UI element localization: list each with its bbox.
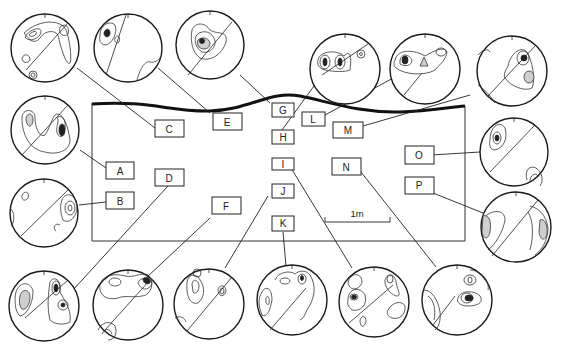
stereonet-P (481, 192, 551, 262)
stereonet-F (93, 270, 163, 340)
station-label-I: I (272, 158, 294, 170)
svg-text:O: O (415, 150, 423, 161)
station-label-N: N (332, 158, 361, 175)
svg-text:I: I (282, 159, 285, 170)
stereonet-M (477, 36, 547, 106)
svg-text:C: C (165, 124, 172, 135)
svg-text:F: F (223, 201, 229, 212)
svg-text:L: L (310, 114, 316, 125)
stereonet-O (480, 118, 548, 186)
stereonet-I (339, 267, 409, 337)
station-label-D: D (155, 169, 184, 186)
stereonet-E (94, 14, 162, 82)
station-label-M: M (333, 122, 363, 138)
scale-bar: 1m (325, 208, 390, 222)
stereonet-K (257, 265, 327, 335)
stereonet-C (11, 14, 79, 82)
station-label-J: J (272, 184, 294, 198)
svg-text:H: H (279, 132, 286, 143)
svg-text:A: A (117, 166, 124, 177)
station-label-F: F (212, 197, 241, 214)
station-label-E: E (213, 113, 242, 130)
svg-text:D: D (165, 173, 172, 184)
station-label-C: C (155, 120, 184, 137)
station-label-A: A (106, 162, 134, 179)
station-label-H: H (272, 130, 294, 144)
stereonet-L (390, 34, 460, 104)
stereonet-G (176, 11, 244, 79)
figure: 1m (0, 0, 561, 345)
stereonet-N (422, 265, 492, 335)
station-label-B: B (106, 192, 134, 209)
svg-text:P: P (416, 180, 423, 191)
scale-bar-label: 1m (350, 208, 363, 219)
stereonet-A (11, 96, 79, 164)
svg-text:J: J (281, 186, 286, 197)
svg-text:M: M (344, 125, 352, 136)
station-label-G: G (272, 103, 294, 117)
station-label-O: O (405, 146, 434, 164)
stereonet-H (310, 34, 380, 104)
stereonet-J (174, 269, 244, 339)
svg-text:N: N (342, 162, 349, 173)
station-label-K: K (272, 216, 294, 231)
svg-text:B: B (117, 196, 124, 207)
svg-text:G: G (279, 105, 287, 116)
station-label-P: P (405, 177, 434, 194)
station-label-L: L (302, 112, 325, 126)
svg-text:K: K (280, 218, 287, 229)
stereonet-B (10, 179, 78, 247)
svg-text:E: E (224, 117, 231, 128)
outcrop-diagram: 1m (0, 0, 561, 345)
stereonet-D (9, 271, 79, 341)
